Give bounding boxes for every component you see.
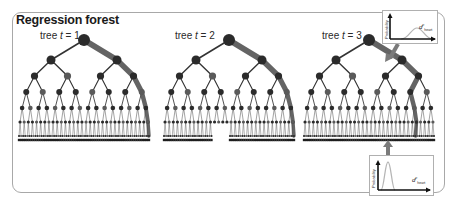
- probability-axis-label: Probability: [371, 169, 376, 188]
- depth-axis-label: dpheart: [419, 23, 432, 32]
- depth-axis-label: dpheart: [412, 176, 425, 185]
- probability-axis-label: Probability: [384, 20, 389, 39]
- inset-distribution-top: Probability dpheart: [382, 10, 438, 44]
- inset-distribution-bottom: Probability dpheart: [369, 155, 434, 196]
